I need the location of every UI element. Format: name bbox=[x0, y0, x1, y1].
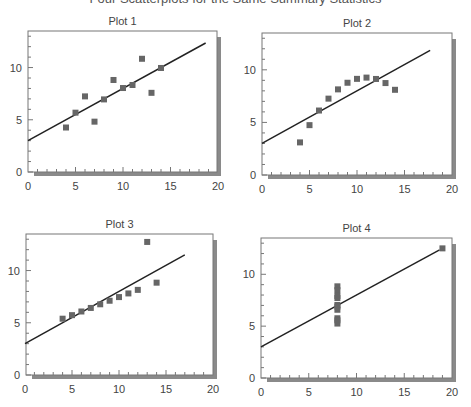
y-tick-label: 5 bbox=[250, 116, 256, 128]
y-tick-label: 10 bbox=[244, 64, 256, 76]
data-point bbox=[334, 304, 340, 310]
frame-shadow bbox=[452, 39, 456, 179]
x-tick-label: 0 bbox=[25, 180, 31, 192]
y-tick-label: 5 bbox=[249, 320, 255, 332]
data-point bbox=[139, 56, 145, 62]
data-point bbox=[73, 110, 79, 116]
data-point bbox=[439, 245, 445, 251]
data-point bbox=[158, 65, 164, 71]
frame-shadow bbox=[268, 175, 456, 179]
x-tick-label: 20 bbox=[446, 386, 458, 398]
data-point bbox=[345, 80, 351, 86]
data-point bbox=[149, 90, 155, 96]
data-point bbox=[120, 85, 126, 91]
data-point bbox=[307, 122, 313, 128]
x-tick-label: 15 bbox=[398, 386, 410, 398]
x-tick-label: 5 bbox=[306, 183, 312, 195]
data-point bbox=[97, 301, 103, 307]
data-point bbox=[316, 108, 322, 114]
x-tick-label: 10 bbox=[350, 386, 362, 398]
x-tick-label: 20 bbox=[446, 183, 458, 195]
data-point bbox=[334, 293, 340, 299]
x-tick-label: 0 bbox=[259, 183, 265, 195]
x-tick-label: 5 bbox=[69, 383, 75, 395]
x-tick-label: 20 bbox=[207, 383, 219, 395]
data-point bbox=[326, 96, 332, 102]
data-point bbox=[334, 317, 340, 323]
frame-shadow bbox=[217, 37, 221, 176]
frame-shadow bbox=[267, 378, 456, 382]
data-point bbox=[107, 298, 113, 304]
x-tick-label: 0 bbox=[22, 383, 28, 395]
x-tick-label: 15 bbox=[398, 183, 410, 195]
plot-title: Plot 4 bbox=[342, 222, 370, 234]
data-point bbox=[354, 76, 360, 82]
frame-shadow bbox=[32, 375, 217, 379]
frame-shadow bbox=[34, 172, 221, 176]
data-point bbox=[125, 290, 131, 296]
y-tick-label: 0 bbox=[250, 169, 256, 181]
data-point bbox=[144, 239, 150, 245]
x-tick-label: 10 bbox=[113, 383, 125, 395]
x-tick-label: 20 bbox=[212, 180, 224, 192]
data-point bbox=[364, 75, 370, 81]
data-point bbox=[92, 119, 98, 125]
scatter-plot-4: Plot 4051005101520 bbox=[243, 222, 458, 398]
frame-shadow bbox=[213, 240, 217, 379]
plot-title: Plot 3 bbox=[105, 218, 133, 230]
x-tick-label: 10 bbox=[117, 180, 129, 192]
x-tick-label: 15 bbox=[160, 383, 172, 395]
data-point bbox=[130, 82, 136, 88]
plots-canvas: Plot 1051005101520Plot 2051005101520Plot… bbox=[0, 0, 471, 407]
data-point bbox=[69, 312, 75, 318]
y-tick-label: 5 bbox=[16, 114, 22, 126]
x-tick-label: 15 bbox=[164, 180, 176, 192]
data-point bbox=[101, 96, 107, 102]
x-tick-label: 5 bbox=[306, 386, 312, 398]
data-point bbox=[78, 308, 84, 314]
x-tick-label: 0 bbox=[258, 386, 264, 398]
data-point bbox=[111, 77, 117, 83]
data-point bbox=[334, 287, 340, 293]
scatter-plot-1: Plot 1051005101520 bbox=[10, 15, 224, 192]
plot-title: Plot 1 bbox=[108, 15, 136, 27]
plot-frame bbox=[26, 234, 213, 375]
data-point bbox=[135, 287, 141, 293]
y-tick-label: 5 bbox=[14, 317, 20, 329]
data-point bbox=[116, 294, 122, 300]
data-point bbox=[154, 280, 160, 286]
data-point bbox=[60, 316, 66, 322]
data-point bbox=[373, 76, 379, 82]
data-point bbox=[63, 125, 69, 131]
y-tick-label: 10 bbox=[8, 265, 20, 277]
data-point bbox=[383, 80, 389, 86]
x-tick-label: 10 bbox=[351, 183, 363, 195]
plot-title: Plot 2 bbox=[343, 17, 371, 29]
x-tick-label: 5 bbox=[72, 180, 78, 192]
y-tick-label: 0 bbox=[16, 166, 22, 178]
data-point bbox=[297, 139, 303, 145]
y-tick-label: 0 bbox=[14, 369, 20, 381]
frame-shadow bbox=[452, 244, 456, 382]
data-point bbox=[335, 86, 341, 92]
y-tick-label: 10 bbox=[243, 268, 255, 280]
data-point bbox=[392, 87, 398, 93]
y-tick-label: 10 bbox=[10, 62, 22, 74]
y-tick-label: 0 bbox=[249, 372, 255, 384]
data-point bbox=[82, 93, 88, 99]
data-point bbox=[88, 305, 94, 311]
scatter-plot-2: Plot 2051005101520 bbox=[244, 17, 458, 195]
scatter-plot-3: Plot 3051005101520 bbox=[8, 218, 219, 395]
